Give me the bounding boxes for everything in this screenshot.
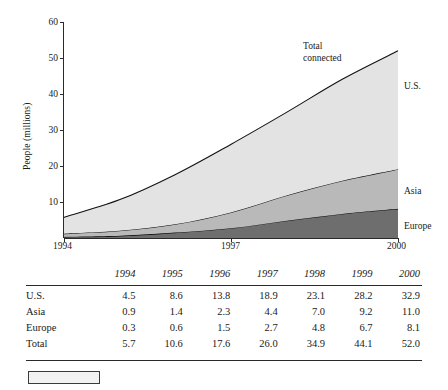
annotation-line-2: connected — [303, 53, 342, 63]
table-column-header-1998: 1998 — [280, 268, 327, 283]
table-column-header-1999: 1999 — [327, 268, 374, 283]
series-label-us: U.S. — [404, 81, 421, 93]
table-cell: 13.8 — [185, 283, 232, 303]
table-row-label-asia: Asia — [26, 303, 90, 319]
table-cell: 23.1 — [280, 283, 327, 303]
table-row-label-europe: Europe — [26, 319, 90, 335]
table-row: Total 5.7 10.6 17.6 26.0 34.9 44.1 52.0 — [26, 335, 422, 351]
stacked-area-chart: People (millions) 60 50 40 30 20 10 1994… — [0, 0, 448, 258]
table-cell: 1.4 — [137, 303, 184, 319]
table-cell: 17.6 — [185, 335, 232, 351]
annotation-line-1: Total — [303, 41, 322, 51]
table-cell: 32.9 — [375, 283, 422, 303]
table-cell: 8.1 — [375, 319, 422, 335]
table-cell: 18.9 — [232, 283, 279, 303]
table-row: Asia 0.9 1.4 2.3 4.4 7.0 9.2 11.0 — [26, 303, 422, 319]
table-cell: 28.2 — [327, 283, 374, 303]
table-cell: 44.1 — [327, 335, 374, 351]
table-header: 1994 1995 1996 1997 1998 1999 2000 — [26, 268, 422, 283]
series-label-asia: Asia — [404, 186, 421, 198]
table-cell: 4.4 — [232, 303, 279, 319]
table-column-header-1997: 1997 — [232, 268, 279, 283]
legend-swatch-box — [28, 371, 100, 384]
table-cell: 2.7 — [232, 319, 279, 335]
table-cell: 0.6 — [137, 319, 184, 335]
table-column-header-1996: 1996 — [185, 268, 232, 283]
y-axis-title: People (millions) — [22, 103, 32, 170]
data-table: 1994 1995 1996 1997 1998 1999 2000 U.S. … — [26, 268, 422, 351]
table-header-row: 1994 1995 1996 1997 1998 1999 2000 — [26, 268, 422, 283]
table-cell: 11.0 — [375, 303, 422, 319]
table-column-header-2000: 2000 — [375, 268, 422, 283]
y-tick-label-50: 50 — [38, 53, 58, 63]
table-row-label-us: U.S. — [26, 283, 90, 303]
table-column-header-1995: 1995 — [137, 268, 184, 283]
table-cell: 0.3 — [90, 319, 137, 335]
x-tick-label-1994: 1994 — [53, 241, 72, 251]
table-cell: 6.7 — [327, 319, 374, 335]
table-cell: 0.9 — [90, 303, 137, 319]
table-cell: 5.7 — [90, 335, 137, 351]
x-tick-label-2000: 2000 — [387, 241, 406, 251]
table-cell: 10.6 — [137, 335, 184, 351]
y-tick-label-40: 40 — [38, 89, 58, 99]
table-corner-cell — [26, 268, 90, 283]
table-cell: 9.2 — [327, 303, 374, 319]
table-body: U.S. 4.5 8.6 13.8 18.9 23.1 28.2 32.9 As… — [26, 283, 422, 351]
table-row: U.S. 4.5 8.6 13.8 18.9 23.1 28.2 32.9 — [26, 283, 422, 303]
table-column-header-1994: 1994 — [90, 268, 137, 283]
table-cell: 2.3 — [185, 303, 232, 319]
table-cell: 4.8 — [280, 319, 327, 335]
table-cell: 1.5 — [185, 319, 232, 335]
y-tick-label-10: 10 — [38, 197, 58, 207]
table-cell: 34.9 — [280, 335, 327, 351]
table-cell: 26.0 — [232, 335, 279, 351]
series-label-europe: Europe — [404, 221, 431, 233]
table-row: Europe 0.3 0.6 1.5 2.7 4.8 6.7 8.1 — [26, 319, 422, 335]
table-cell: 8.6 — [137, 283, 184, 303]
table-bottom-rule — [26, 360, 422, 361]
x-tick-label-1997: 1997 — [221, 241, 240, 251]
table-cell: 7.0 — [280, 303, 327, 319]
annotation-total-connected: Total connected — [303, 41, 342, 64]
y-tick-label-60: 60 — [38, 17, 58, 27]
y-tick-label-20: 20 — [38, 161, 58, 171]
table-cell: 52.0 — [375, 335, 422, 351]
chart-plot-area — [0, 0, 448, 258]
y-tick-label-30: 30 — [38, 125, 58, 135]
table-row-label-total: Total — [26, 335, 90, 351]
table-cell: 4.5 — [90, 283, 137, 303]
